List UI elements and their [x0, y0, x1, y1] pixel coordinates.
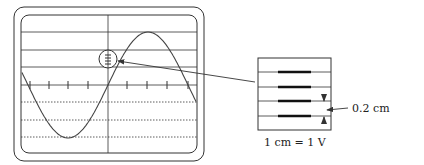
spacing-arrow — [327, 108, 348, 110]
inset-box — [258, 58, 331, 130]
pointer-arrow — [118, 61, 255, 82]
spacing-label: 0.2 cm — [352, 102, 390, 115]
oscilloscope-diagram — [0, 0, 424, 165]
scale-label: 1 cm = 1 V — [264, 136, 326, 149]
oscilloscope-screen — [14, 7, 204, 161]
magnified-inset — [258, 58, 331, 130]
annotation-arrows — [118, 61, 348, 110]
